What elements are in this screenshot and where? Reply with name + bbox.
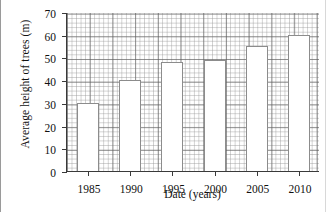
y-tick-label: 60 [45, 30, 57, 42]
y-tick: 10 [62, 149, 67, 150]
x-tick: 2000 [215, 171, 216, 176]
bar [77, 103, 99, 171]
y-tick-label: 70 [45, 8, 57, 20]
x-axis-title: Date (years) [66, 188, 319, 200]
x-tick: 2010 [299, 171, 300, 176]
grid-lines [67, 13, 319, 171]
y-tick: 50 [62, 58, 67, 59]
x-tick: 2005 [257, 171, 258, 176]
y-tick-label: 30 [45, 99, 57, 111]
y-axis-title: Average height of trees (m) [19, 4, 31, 164]
x-tick: 1995 [172, 171, 173, 176]
y-tick: 60 [62, 36, 67, 37]
bar [288, 35, 310, 171]
x-tick: 1985 [88, 171, 89, 176]
y-tick-label: 0 [50, 167, 56, 179]
y-tick: 0 [62, 172, 67, 173]
y-tick-label: 10 [45, 144, 57, 156]
bar [161, 62, 183, 171]
x-tick: 1990 [130, 171, 131, 176]
bar [246, 46, 268, 171]
y-tick: 70 [62, 13, 67, 14]
y-tick-label: 40 [45, 76, 57, 88]
bar [119, 80, 141, 171]
y-tick: 20 [62, 127, 67, 128]
chart-figure: Average height of trees (m) 010203040506… [0, 0, 326, 212]
y-tick: 30 [62, 104, 67, 105]
plot-area: 010203040506070 198519901995200020052010 [66, 13, 319, 172]
y-tick-label: 20 [45, 121, 57, 133]
y-tick-label: 50 [45, 53, 57, 65]
bar [204, 60, 226, 171]
y-tick: 40 [62, 81, 67, 82]
